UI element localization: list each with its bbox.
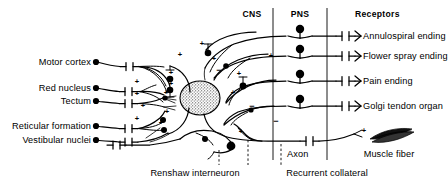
figure-canvas: ++++++++++++++++−−−+ CNS PNS Receptors M…: [0, 0, 448, 182]
header-cns: CNS: [242, 9, 261, 19]
label-annulospiral-ending: Annulospiral ending: [363, 31, 446, 41]
soma-vestibular-nuclei: [93, 137, 99, 143]
muscle-fiber-glyph: [370, 128, 414, 142]
pool-boundary-left-lower: [168, 108, 189, 134]
excitatory-sign-0: +: [169, 68, 174, 77]
label-reticular-formation: Reticular formation: [12, 121, 91, 131]
excitatory-sign-14: +: [239, 127, 244, 136]
tract-red-nucleus: [93, 85, 138, 96]
excitatory-sign-13: +: [231, 88, 236, 97]
excitatory-sign-9: +: [200, 39, 205, 48]
label-vestibular-nuclei: Vestibular nuclei: [22, 135, 91, 145]
drg-neuron-4: [288, 95, 312, 108]
excitatory-sign-3: +: [135, 77, 140, 86]
drg-neuron-1: [288, 25, 312, 38]
inhibitory-sign-18: −: [273, 116, 278, 126]
label-red-nucleus: Red nucleus: [39, 83, 91, 93]
arbor-arc-upper: [206, 32, 256, 50]
inhibitory-sign-16: −: [216, 65, 221, 75]
label-flower-spray-ending: Flower spray ending: [363, 51, 448, 61]
label-axon: Axon: [287, 149, 308, 159]
receptor-fiber-annulospiral: [312, 31, 361, 41]
excitatory-sign-15: +: [362, 126, 367, 135]
motor-neuron-pool: [180, 81, 220, 115]
excitatory-sign-11: +: [212, 54, 217, 63]
receptor-fiber-flower-spray: [312, 51, 361, 61]
excitatory-sign-12: +: [237, 69, 242, 78]
label-tectum: Tectum: [61, 96, 91, 106]
soma-red-nucleus: [93, 85, 99, 91]
label-golgi-tendon-organ: Golgi tendon organ: [363, 101, 443, 111]
neural-circuit-diagram: ++++++++++++++++−−−+ CNS PNS Receptors M…: [0, 0, 448, 182]
excitatory-sign-2: +: [164, 88, 169, 97]
excitatory-sign-6: +: [135, 114, 140, 123]
label-motor-cortex: Motor cortex: [39, 57, 92, 67]
label-renshaw-interneuron: Renshaw interneuron: [150, 168, 239, 178]
soma-tectum: [93, 98, 99, 104]
excitatory-sign-7: +: [159, 118, 164, 127]
drg-neuron-3: [288, 70, 312, 83]
excitatory-sign-4: +: [135, 89, 140, 98]
receptor-fiber-golgi: [312, 101, 361, 111]
soma-motor-cortex: [93, 59, 99, 65]
renshaw-interneuron: [107, 130, 235, 159]
soma-reticular-formation: [93, 123, 99, 129]
label-muscle-fiber: Muscle fiber: [364, 149, 415, 159]
excitatory-sign-8: +: [165, 107, 170, 116]
excitatory-sign-1: +: [169, 79, 174, 88]
tract-reticular-formation: [93, 111, 167, 133]
soma-renshaw: [227, 142, 236, 151]
inhibitory-sign-17: −: [249, 101, 254, 111]
excitatory-sign-10: +: [178, 50, 183, 59]
label-pain-ending: Pain ending: [363, 76, 413, 86]
excitatory-sign-5: +: [141, 101, 146, 110]
tract-tectum: [93, 98, 138, 108]
label-recurrent-collateral: Recurrent collateral: [286, 168, 368, 178]
drg-neuron-2: [288, 45, 312, 58]
synapse-sign-layer: ++++++++++++++++−−−+: [135, 39, 367, 136]
receptor-fiber-pain: [312, 76, 361, 86]
excitatory-sign-19: +: [269, 51, 274, 60]
header-receptors: Receptors: [355, 9, 400, 19]
header-pns: PNS: [291, 9, 310, 19]
